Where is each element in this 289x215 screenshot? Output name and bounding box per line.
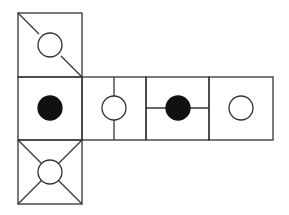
face-middle-2 [82, 77, 146, 140]
face-middle-4 [209, 77, 273, 140]
cube-net-diagram [0, 0, 289, 215]
face-middle-3 [146, 77, 209, 140]
face-top [18, 13, 82, 77]
face-middle-1 [18, 77, 82, 140]
net-svg [0, 0, 289, 215]
face-bottom [18, 140, 82, 204]
